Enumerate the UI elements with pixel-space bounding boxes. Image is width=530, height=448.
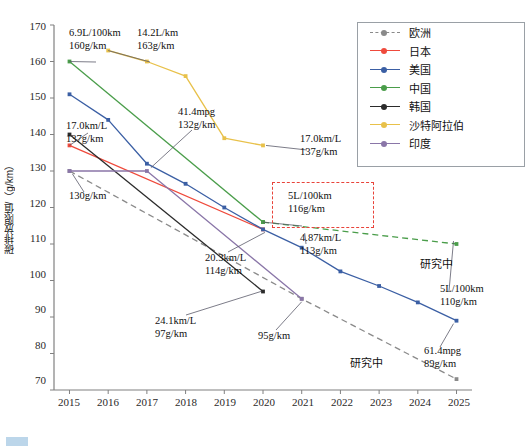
data-point xyxy=(145,169,149,173)
annotation-leader-line xyxy=(108,51,150,62)
annotation-china-2025: 5L/100km 110g/km xyxy=(440,283,484,308)
legend: 欧洲日本美国中国韩国沙特阿拉伯印度 xyxy=(357,22,525,167)
annotation-line: 116g/km xyxy=(288,203,332,216)
legend-label: 欧洲 xyxy=(409,24,431,40)
data-point xyxy=(145,162,149,166)
legend-swatch xyxy=(370,124,400,125)
annotation-korea-2020: 24.1km/L 97g/km xyxy=(155,315,196,340)
annotation-leader-line xyxy=(440,324,454,347)
legend-item-韩国[interactable]: 韩国 xyxy=(358,97,524,116)
annotation-research-europe: 研究中 xyxy=(350,357,383,370)
legend-item-沙特阿拉伯[interactable]: 沙特阿拉伯 xyxy=(358,116,524,135)
annotation-europe-2021: 95g/km xyxy=(258,330,290,343)
legend-swatch xyxy=(370,69,400,70)
data-point xyxy=(222,206,226,210)
annotation-leader-line xyxy=(69,62,96,63)
annotation-japan-2015: 17.0km/L 137g/km xyxy=(66,120,107,145)
legend-swatch xyxy=(370,87,400,88)
annotation-leader-line xyxy=(151,130,192,168)
annotation-saudi-2020: 17.0km/L 137g/km xyxy=(300,133,341,158)
annotation-india-2021: 4.87km/L 113g/km xyxy=(300,232,341,257)
data-point xyxy=(416,301,420,305)
data-point xyxy=(68,169,72,173)
data-point xyxy=(222,136,226,140)
annotation-line: 160g/km xyxy=(69,40,121,53)
data-point xyxy=(339,270,343,274)
legend-label: 韩国 xyxy=(409,98,431,114)
annotation-china-2020: 5L/100km 116g/km xyxy=(288,190,332,215)
data-point xyxy=(184,74,188,78)
annotation-china-2015: 6.9L/100km 160g/km xyxy=(69,27,121,52)
annotation-line: 113g/km xyxy=(300,245,341,258)
legend-item-中国[interactable]: 中国 xyxy=(358,79,524,98)
annotation-line: 20.3km/L xyxy=(205,252,246,265)
annotation-saudi-2016: 14.2L/km 163g/km xyxy=(137,27,178,52)
annotation-line: 97g/km xyxy=(155,328,196,341)
annotation-leader-line xyxy=(186,291,261,315)
annotation-line: 61.4mpg xyxy=(424,345,461,358)
corner-marker xyxy=(6,437,28,446)
annotation-usa-2017: 41.4mpg 132g/km xyxy=(178,106,215,131)
legend-label: 日本 xyxy=(409,43,431,59)
data-point xyxy=(261,228,265,232)
series-line-欧洲 xyxy=(70,171,457,379)
annotation-line: 14.2L/km xyxy=(137,27,178,40)
data-point xyxy=(261,144,265,148)
annotation-europe-2015: 130g/km xyxy=(69,190,106,203)
legend-label: 印度 xyxy=(409,135,431,151)
legend-label: 美国 xyxy=(409,61,431,77)
annotation-line: 5L/100km xyxy=(440,283,484,296)
series-line-沙特阿拉伯 xyxy=(108,51,263,146)
annotation-line: 130g/km xyxy=(69,190,106,203)
annotation-line: 6.9L/100km xyxy=(69,27,121,40)
annotation-line: 110g/km xyxy=(440,296,484,309)
legend-label: 中国 xyxy=(409,80,431,96)
annotation-line: 132g/km xyxy=(178,119,215,132)
legend-item-日本[interactable]: 日本 xyxy=(358,42,524,61)
data-point xyxy=(261,290,265,294)
annotation-usa-2025: 61.4mpg 89g/km xyxy=(424,345,461,370)
annotation-line: 17.0km/L xyxy=(300,133,341,146)
annotation-line: 17.0km/L xyxy=(66,120,107,133)
annotation-line: 137g/km xyxy=(66,133,107,146)
data-point xyxy=(377,284,381,288)
annotation-line: 24.1km/L xyxy=(155,315,196,328)
annotation-line: 41.4mpg xyxy=(178,106,215,119)
data-point xyxy=(455,319,459,323)
legend-item-美国[interactable]: 美国 xyxy=(358,60,524,79)
chart-figure: 碳排放限值/（g/km） 170 160 150 140 130 120 110… xyxy=(0,0,530,448)
data-point xyxy=(455,242,459,246)
annotation-line: 89g/km xyxy=(424,358,461,371)
annotation-line: 163g/km xyxy=(137,40,178,53)
legend-item-印度[interactable]: 印度 xyxy=(358,134,524,153)
annotation-line: 137g/km xyxy=(300,146,341,159)
legend-item-欧洲[interactable]: 欧洲 xyxy=(358,23,524,42)
legend-swatch xyxy=(370,106,400,107)
legend-swatch xyxy=(370,32,400,33)
legend-swatch xyxy=(370,143,400,144)
annotation-line: 5L/100km xyxy=(288,190,332,203)
data-point xyxy=(300,297,304,301)
legend-swatch xyxy=(370,50,400,51)
annotation-line: 114g/km xyxy=(205,265,246,278)
legend-label: 沙特阿拉伯 xyxy=(409,117,464,133)
data-point xyxy=(184,182,188,186)
data-point xyxy=(68,92,72,96)
data-point xyxy=(455,377,459,381)
annotation-line: 4.87km/L xyxy=(300,232,341,245)
annotation-japan-2020: 20.3km/L 114g/km xyxy=(205,252,246,277)
annotation-research-china: 研究中 xyxy=(420,258,453,271)
annotation-line: 95g/km xyxy=(258,330,290,343)
annotation-leader-line xyxy=(276,302,302,330)
